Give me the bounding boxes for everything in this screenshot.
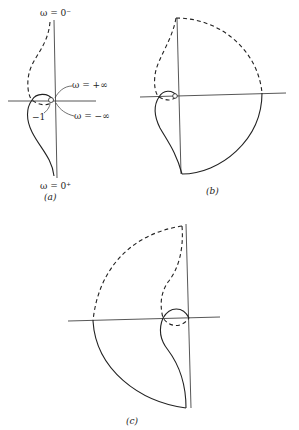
nyquist-curve-negative-freq-c: [161, 226, 189, 326]
label-omega-minus-inf: ω = −∞: [74, 111, 110, 121]
nyquist-curve-positive-freq-c: [160, 309, 189, 408]
imag-axis-a: [54, 20, 57, 178]
nyquist-curve-positive-freq-b: [155, 91, 182, 174]
infinite-arc-upper-b: [176, 18, 262, 93]
panel-a: ω = 0⁻ ω = +∞ ω = −∞ −1 ω = 0⁺ (a): [8, 8, 110, 202]
origin-small-circle-a: [49, 98, 54, 103]
label-omega-plus-inf: ω = +∞: [72, 80, 108, 90]
infinite-arc-lower-b: [182, 93, 262, 174]
panel-c: (c): [68, 224, 220, 426]
nyquist-curve-negative-freq-a: [28, 22, 52, 105]
nyquist-curve-negative-freq-b: [155, 18, 176, 100]
nyquist-diagram-figure: ω = 0⁻ ω = +∞ ω = −∞ −1 ω = 0⁺ (a) (b) (…: [0, 0, 299, 430]
nyquist-curve-positive-freq-a: [28, 94, 55, 176]
caption-a: (a): [44, 192, 57, 202]
arrow-plus-inf: [55, 86, 72, 98]
label-omega-zero-plus: ω = 0⁺: [40, 181, 71, 191]
real-axis-c: [68, 317, 220, 321]
infinite-arc-upper-c: [93, 226, 182, 321]
arrow-minus-inf: [56, 103, 74, 116]
infinite-arc-lower-c: [93, 321, 186, 408]
panel-b: (b): [140, 18, 286, 196]
label-critical-point: −1: [32, 112, 45, 122]
origin-small-circle-b: [173, 94, 178, 99]
caption-b: (b): [206, 186, 219, 196]
caption-c: (c): [126, 416, 139, 426]
label-omega-zero-minus: ω = 0⁻: [40, 8, 71, 18]
